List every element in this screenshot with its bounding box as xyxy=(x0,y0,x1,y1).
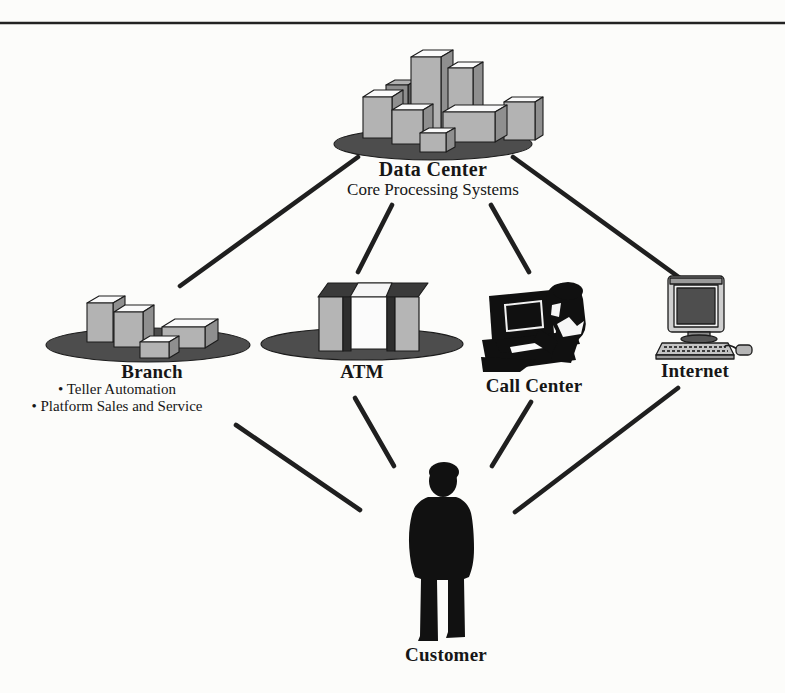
person-silhouette-icon xyxy=(409,462,474,641)
connector-branch-customer xyxy=(236,425,360,510)
server-buildings-cluster-icon xyxy=(334,50,543,160)
customer-label: Customer xyxy=(366,645,526,666)
connector-datacenter-callcenter xyxy=(491,205,529,272)
data-center-label: Data Center xyxy=(283,159,583,181)
desktop-computer-icon xyxy=(656,276,752,359)
branch-bullet-platform-sales: • Platform Sales and Service xyxy=(17,398,217,415)
data-center-sublabel: Core Processing Systems xyxy=(283,181,583,199)
building-box xyxy=(420,128,455,152)
atm-label: ATM xyxy=(302,362,422,383)
connector-atm-customer xyxy=(355,398,394,466)
branch-label: Branch xyxy=(72,362,232,383)
call-center-label: Call Center xyxy=(454,376,614,397)
mouse-icon xyxy=(736,345,752,355)
connector-internet-customer xyxy=(515,388,678,512)
diagram-graphics xyxy=(0,0,785,693)
diagram-canvas: Data Center Core Processing Systems Bran… xyxy=(0,0,785,693)
branch-buildings-icon xyxy=(46,296,250,362)
connector-datacenter-atm xyxy=(358,205,392,272)
atm-machine-icon xyxy=(261,283,463,360)
branch-bullet-teller-automation: • Teller Automation xyxy=(17,381,217,398)
internet-label: Internet xyxy=(615,361,775,382)
connector-callcenter-customer xyxy=(492,402,531,466)
call-center-agent-icon xyxy=(481,282,586,372)
building-box xyxy=(504,97,543,140)
building-box xyxy=(140,336,179,358)
branch-bullet-list: • Teller Automation • Platform Sales and… xyxy=(17,381,217,414)
connector-lines-lower xyxy=(236,388,678,512)
